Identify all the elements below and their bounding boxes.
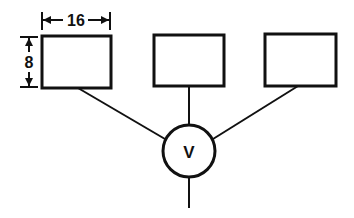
node-label: V <box>183 143 195 162</box>
connector-left <box>78 88 165 139</box>
height-label: 8 <box>25 54 34 71</box>
box-center <box>154 35 224 86</box>
box-right <box>265 34 336 86</box>
box-left <box>42 36 111 88</box>
diagram-canvas: V 16 8 <box>0 0 354 218</box>
width-dimension: 16 <box>42 12 110 30</box>
connector-right <box>213 86 298 139</box>
height-dimension: 8 <box>20 37 38 87</box>
width-label: 16 <box>67 12 85 29</box>
